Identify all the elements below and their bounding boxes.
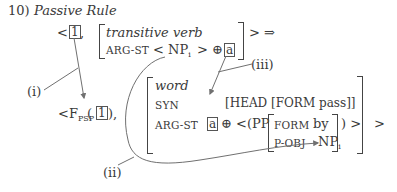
arrow-iii <box>210 56 226 94</box>
pointer-ii <box>118 157 134 165</box>
diagram-connectors <box>0 0 397 192</box>
pointer-i <box>44 68 78 90</box>
pointer-iii <box>218 64 252 72</box>
arrow-i <box>74 38 84 98</box>
arrow-ii <box>126 57 318 163</box>
